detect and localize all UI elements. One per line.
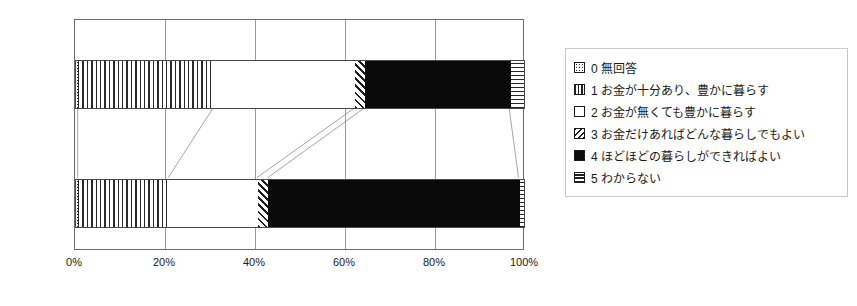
legend-item-5: 5 わからない [574,166,839,188]
legend-label-0: 0 無回答 [591,59,637,76]
bar-thailand-segment-1 [78,179,169,228]
xtick-60: 60% [333,256,355,268]
bar-thailand-segment-5 [520,179,525,228]
bar-japan-segment-4 [365,60,511,109]
bar-japan [75,60,525,109]
xtick-80: 80% [423,256,445,268]
bar-japan-segment-5 [511,60,525,109]
bar-thailand [75,179,525,228]
legend-label-3: 3 お金だけあればどんな暮らしでもよい [591,125,805,142]
xtick-100: 100% [510,256,538,268]
legend-item-2: 2 お金が無くても豊かに暮らす [574,100,839,122]
legend-swatch-solid-black-icon [574,150,585,161]
legend-item-3: 3 お金だけあればどんな暮らしでもよい [574,122,839,144]
bar-japan-segment-3 [355,60,365,109]
legend-swatch-horizontal-stripes-icon [574,172,585,183]
legend-label-5: 5 わからない [591,169,661,186]
legend-swatch-diagonal-stripes-icon [574,128,585,139]
legend-swatch-vertical-stripes-icon [574,84,585,95]
bar-thailand-segment-3 [258,179,269,228]
xtick-40: 40% [243,256,265,268]
legend-item-0: 0 無回答 [574,56,839,78]
legend-swatch-dots-icon [574,62,585,73]
bar-thailand-segment-2 [169,179,258,228]
xtick-20: 20% [153,256,175,268]
xtick-0: 0% [66,256,82,268]
legend-item-4: 4 ほどほどの暮らしができればよい [574,144,839,166]
legend-label-2: 2 お金が無くても豊かに暮らす [591,103,756,120]
bar-japan-segment-1 [78,60,214,109]
stacked-bar-chart: 日本 タイ 0% 20% 40% 60% 80% 100% 0 無回答 1 お金… [0,0,857,306]
legend-swatch-white-icon [574,106,585,117]
legend-label-4: 4 ほどほどの暮らしができればよい [591,147,781,164]
legend-item-1: 1 お金が十分あり、豊かに暮らす [574,78,839,100]
bar-thailand-segment-4 [268,179,520,228]
plot-area [74,19,524,250]
legend-label-1: 1 お金が十分あり、豊かに暮らす [591,81,769,98]
bar-japan-segment-2 [214,60,356,109]
chart-legend: 0 無回答 1 お金が十分あり、豊かに暮らす 2 お金が無くても豊かに暮らす 3… [565,48,848,197]
